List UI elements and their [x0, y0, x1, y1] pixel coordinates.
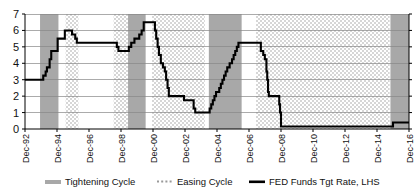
x-tick-label: Dec-00	[149, 134, 159, 163]
x-tick-label: Dec-10	[309, 134, 319, 163]
y-tick-label: 6	[13, 24, 19, 36]
y-tick-label: 5	[13, 41, 19, 53]
y-tick-label: 4	[13, 57, 19, 69]
fed-funds-rate-chart: 01234567 Dec-92Dec-94Dec-96Dec-98Dec-00D…	[0, 0, 417, 196]
y-axis-ticks: 01234567	[13, 8, 25, 135]
legend-easing-swatch	[165, 181, 167, 183]
y-tick-label: 2	[13, 90, 19, 102]
easing-cycle-band	[114, 14, 128, 129]
x-tick-label: Dec-06	[245, 134, 255, 163]
legend-item-label: Tightening Cycle	[65, 176, 135, 187]
legend-line-swatch	[249, 181, 265, 184]
y-tick-label: 0	[13, 123, 19, 135]
tightening-cycle-band	[40, 14, 58, 129]
x-tick-label: Dec-94	[53, 134, 63, 163]
x-tick-label: Dec-08	[277, 134, 287, 163]
legend-tightening-swatch	[45, 180, 61, 184]
legend-item-label: Easing Cycle	[177, 176, 232, 187]
x-tick-label: Dec-14	[373, 134, 383, 163]
legend-item-label: FED Funds Tgt Rate, LHS	[269, 176, 380, 187]
x-tick-label: Dec-12	[341, 134, 351, 163]
x-tick-label: Dec-04	[213, 134, 223, 163]
legend-easing-swatch	[161, 181, 163, 183]
x-tick-label: Dec-02	[181, 134, 191, 163]
chart-legend: Tightening CycleEasing CycleFED Funds Tg…	[45, 176, 380, 187]
y-tick-label: 7	[13, 8, 19, 20]
legend-easing-swatch	[157, 181, 159, 183]
y-tick-label: 1	[13, 107, 19, 119]
legend-easing-swatch	[170, 181, 172, 183]
x-tick-label: Dec-98	[117, 134, 127, 163]
x-tick-label: Dec-16	[405, 134, 415, 163]
easing-cycle-band	[256, 14, 390, 129]
x-axis-ticks: Dec-92Dec-94Dec-96Dec-98Dec-00Dec-02Dec-…	[21, 129, 415, 163]
x-tick-label: Dec-92	[21, 134, 31, 163]
x-tick-label: Dec-96	[85, 134, 95, 163]
tightening-cycle-band	[390, 14, 409, 129]
y-tick-label: 3	[13, 74, 19, 86]
chart-canvas: 01234567 Dec-92Dec-94Dec-96Dec-98Dec-00D…	[0, 0, 417, 196]
